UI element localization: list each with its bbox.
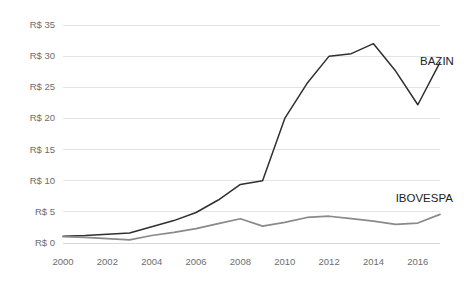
x-tick-label: 2010 xyxy=(274,256,295,267)
y-tick-label: R$ 20 xyxy=(30,112,55,123)
series-label-bazin: BAZIN xyxy=(420,55,454,67)
y-tick-label: R$ 5 xyxy=(35,206,55,217)
y-tick-label: R$ 30 xyxy=(30,50,55,61)
x-tick-label: 2014 xyxy=(363,256,384,267)
y-tick-label: R$ 10 xyxy=(30,175,55,186)
x-tick-label: 2004 xyxy=(141,256,162,267)
series-line-bazin xyxy=(63,44,440,236)
series-line-ibovespa xyxy=(63,214,440,240)
y-tick-label: R$ 35 xyxy=(30,19,55,30)
x-tick-label: 2006 xyxy=(185,256,206,267)
x-axis-tick-labels: 200020022004200620082010201220142016 xyxy=(52,256,428,267)
x-tick-label: 2008 xyxy=(230,256,251,267)
x-tick-label: 2012 xyxy=(319,256,340,267)
y-tick-label: R$ 25 xyxy=(30,81,55,92)
x-tick-label: 2002 xyxy=(97,256,118,267)
y-axis-tick-labels: R$ 0R$ 5R$ 10R$ 15R$ 20R$ 25R$ 30R$ 35 xyxy=(30,19,55,248)
series-label-ibovespa: IBOVESPA xyxy=(396,192,454,204)
x-tick-label: 2016 xyxy=(407,256,428,267)
chart-container: R$ 0R$ 5R$ 10R$ 15R$ 20R$ 25R$ 30R$ 35 2… xyxy=(0,0,464,290)
gridlines xyxy=(63,25,440,243)
y-tick-label: R$ 15 xyxy=(30,144,55,155)
series-labels: BAZINIBOVESPA xyxy=(396,55,454,204)
data-series xyxy=(63,44,440,240)
line-chart: R$ 0R$ 5R$ 10R$ 15R$ 20R$ 25R$ 30R$ 35 2… xyxy=(0,0,464,290)
x-tick-label: 2000 xyxy=(52,256,73,267)
y-tick-label: R$ 0 xyxy=(35,237,55,248)
